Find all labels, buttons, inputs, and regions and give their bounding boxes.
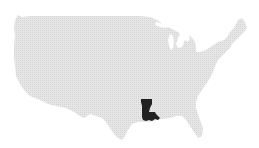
us-landmass (14, 15, 247, 140)
us-map-svg (0, 0, 259, 148)
us-map (0, 0, 259, 148)
